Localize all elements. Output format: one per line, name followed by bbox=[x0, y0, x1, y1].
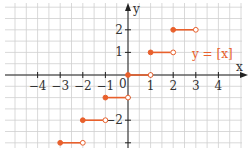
x-axis-label: x bbox=[236, 60, 243, 74]
open-endpoint bbox=[171, 50, 176, 55]
open-endpoint bbox=[126, 95, 131, 100]
y-tick-label: 2 bbox=[115, 23, 123, 37]
x-tick-label: 1 bbox=[147, 79, 155, 93]
x-tick-label: 4 bbox=[215, 79, 223, 93]
closed-endpoint bbox=[80, 118, 85, 123]
x-tick-label: −4 bbox=[29, 79, 47, 93]
x-tick-label: −3 bbox=[51, 79, 69, 93]
closed-endpoint bbox=[148, 50, 153, 55]
x-tick-label: 2 bbox=[169, 79, 177, 93]
x-tick-label: −1 bbox=[97, 79, 115, 93]
function-label: y = [x] bbox=[191, 47, 233, 61]
step-function-chart: −4−3−2−11234−212 y = [x] x y 0 bbox=[0, 0, 252, 150]
x-tick-label: −2 bbox=[74, 79, 92, 93]
closed-endpoint bbox=[58, 140, 63, 145]
closed-endpoint bbox=[171, 27, 176, 32]
open-endpoint bbox=[193, 27, 198, 32]
closed-endpoint bbox=[103, 95, 108, 100]
y-axis-label: y bbox=[132, 2, 140, 16]
y-tick-label: 1 bbox=[115, 45, 123, 59]
open-endpoint bbox=[148, 73, 153, 78]
x-tick-label: 3 bbox=[192, 79, 200, 93]
origin-label: 0 bbox=[119, 77, 127, 91]
open-endpoint bbox=[80, 140, 85, 145]
open-endpoint bbox=[103, 118, 108, 123]
